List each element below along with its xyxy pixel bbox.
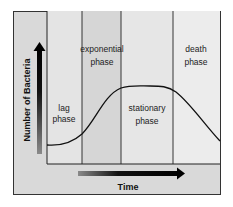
exponential-label-1: exponential <box>80 44 124 54</box>
death-phase-region <box>173 11 220 164</box>
death-label-2: phase <box>184 57 207 67</box>
lag-phase-region <box>47 11 82 164</box>
stationary-label-2: phase <box>135 116 158 126</box>
stationary-label-1: stationary <box>129 103 167 113</box>
exponential-phase-region <box>82 11 121 164</box>
y-axis-label: Number of Bacteria <box>22 57 32 141</box>
lag-label-1: lag <box>58 103 70 113</box>
x-axis-arrow-shaft <box>78 171 178 176</box>
y-axis-arrow-shaft <box>37 50 42 154</box>
lag-label-2: phase <box>52 114 75 124</box>
death-label-1: death <box>185 44 207 54</box>
bacterial-growth-curve: lag phase exponential phase stationary p… <box>0 0 233 207</box>
up-arrow-icon <box>34 42 46 51</box>
exponential-label-2: phase <box>90 57 113 67</box>
right-arrow-icon <box>177 168 185 180</box>
x-axis-label: Time <box>118 182 139 192</box>
